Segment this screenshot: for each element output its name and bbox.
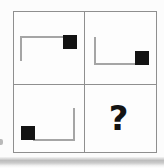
question-mark: ? xyxy=(109,101,129,135)
bracket-left-line xyxy=(20,36,22,61)
cell-bottom-right: ? xyxy=(85,85,156,152)
puzzle-figure: ? xyxy=(0,0,164,168)
puzzle-grid: ? xyxy=(13,11,157,153)
cell-top-left xyxy=(14,12,84,84)
scan-edge-artifact xyxy=(0,139,3,145)
page-scan-shadow xyxy=(0,157,164,167)
bracket-right-line xyxy=(73,108,75,141)
bracket-bottom-line xyxy=(33,139,75,141)
black-square xyxy=(21,126,35,140)
cell-bottom-left xyxy=(14,85,84,152)
black-square xyxy=(135,51,149,65)
cell-top-right xyxy=(85,12,156,84)
black-square xyxy=(63,35,77,49)
bracket-left-line xyxy=(94,37,96,65)
bracket-top-line xyxy=(20,36,64,38)
